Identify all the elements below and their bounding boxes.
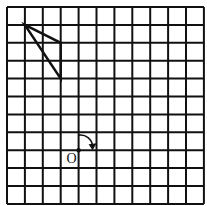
grid-lines: [7, 7, 204, 204]
center-point-label: O: [67, 151, 77, 166]
arrowhead-icon: [89, 143, 97, 150]
grid-diagram: O: [0, 0, 207, 206]
center-point-o: [76, 148, 80, 152]
